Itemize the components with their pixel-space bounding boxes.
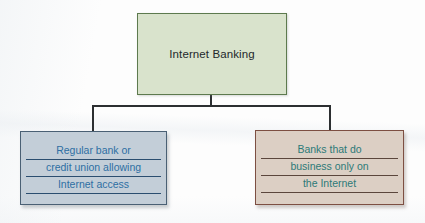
diagram-canvas: Internet Banking Regular bank or credit … [0,0,425,223]
node-internet-only-bank: Banks that do business only on the Inter… [255,130,404,205]
node-regular-bank-line-2: credit union allowing [26,160,161,177]
node-regular-bank-line-3: Internet access [26,177,161,194]
connector-drop-left [92,105,94,132]
connector-drop-right [329,105,331,131]
node-regular-bank: Regular bank or credit union allowing In… [20,131,167,205]
node-regular-bank-lines: Regular bank or credit union allowing In… [21,143,166,194]
node-internet-only-bank-lines: Banks that do business only on the Inter… [256,142,403,193]
connector-horizontal-bar [92,105,331,107]
node-internet-only-bank-line-1: Banks that do [261,142,398,159]
node-regular-bank-line-1: Regular bank or [26,143,161,160]
node-internet-only-bank-line-2: business only on [261,159,398,176]
node-internet-only-bank-line-3: the Internet [261,176,398,193]
node-internet-banking: Internet Banking [137,13,287,95]
node-internet-banking-label: Internet Banking [169,48,254,60]
